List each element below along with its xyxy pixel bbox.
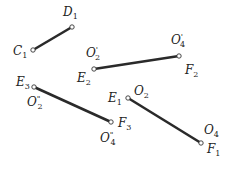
endpoint-circle-icon [32, 85, 36, 89]
point-label: O'4 [171, 32, 185, 49]
segment-e1f1 [128, 98, 201, 143]
point-label: F3 [117, 116, 131, 132]
point-label: O4 [204, 123, 219, 139]
point-label: E1 [107, 91, 122, 107]
endpoint-circle-icon [31, 48, 35, 52]
endpoint-circle-icon [177, 54, 181, 58]
endpoint-circle-icon [126, 96, 130, 100]
point-label: E2 [76, 71, 91, 87]
endpoint-circle-icon [199, 141, 203, 145]
endpoint-circle-icon [109, 120, 113, 124]
point-label: O'2 [86, 45, 100, 62]
point-label: O2 [134, 84, 149, 100]
endpoint-circle-icon [92, 67, 96, 71]
segment-e2f2 [94, 56, 179, 69]
segment-c1d1 [33, 27, 72, 50]
point-label: C1 [13, 44, 27, 60]
point-label: O"4 [100, 130, 116, 147]
point-label: O"2 [27, 94, 43, 111]
segment-e3f3 [34, 87, 111, 122]
endpoint-circle-icon [70, 25, 74, 29]
point-label: F2 [184, 63, 198, 79]
line-segments-diagram: D1C1O'2E2O'4F2E3O"2E1O2F3O"4O4F1 [0, 0, 231, 170]
point-label: D1 [62, 5, 78, 21]
point-label: F1 [206, 142, 220, 158]
point-label: E3 [15, 75, 30, 91]
